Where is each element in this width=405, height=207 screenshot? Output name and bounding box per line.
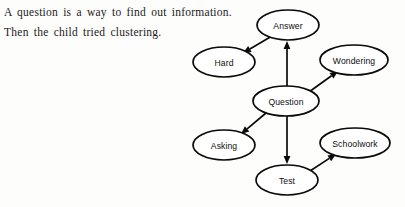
node-answer[interactable]: Answer xyxy=(257,10,319,40)
arrowhead-icon xyxy=(284,41,291,49)
node-hard[interactable]: Hard xyxy=(193,47,255,77)
node-wondering[interactable]: Wondering xyxy=(320,45,388,75)
node-label: Answer xyxy=(273,21,302,31)
edge-line xyxy=(310,158,329,171)
edge-question-test xyxy=(284,116,291,164)
edge-answer-hard xyxy=(243,36,272,53)
node-label: Hard xyxy=(214,58,233,68)
arrowhead-icon xyxy=(284,156,291,164)
node-asking[interactable]: Asking xyxy=(193,130,255,160)
document-page: A question is a way to find out informat… xyxy=(0,0,405,207)
edge-line xyxy=(247,113,266,129)
node-label: Schoolwork xyxy=(332,139,378,149)
edge-line xyxy=(309,76,332,92)
edge-question-wondering xyxy=(309,71,338,92)
edge-line xyxy=(250,36,272,49)
edge-question-asking xyxy=(241,113,266,134)
node-label: Test xyxy=(279,176,296,186)
concept-map-diagram: AnswerHardWonderingQuestionAskingSchoolw… xyxy=(0,0,405,207)
node-question[interactable]: Question xyxy=(253,86,319,116)
edge-test-schoolwork xyxy=(310,154,336,171)
node-schoolwork[interactable]: Schoolwork xyxy=(320,128,390,158)
edge-question-answer xyxy=(284,41,291,86)
node-label: Wondering xyxy=(333,56,375,66)
node-label: Asking xyxy=(211,141,238,151)
nodes-layer: AnswerHardWonderingQuestionAskingSchoolw… xyxy=(193,10,390,195)
node-label: Question xyxy=(268,97,303,107)
node-test[interactable]: Test xyxy=(256,165,318,195)
